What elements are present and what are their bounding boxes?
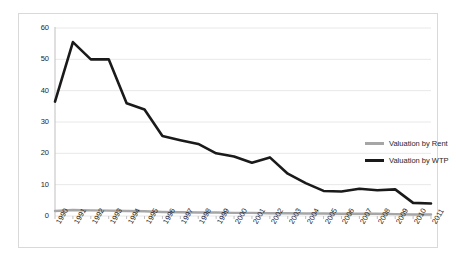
y-tick-label: 60 (29, 23, 49, 32)
legend-swatch-rent (365, 142, 384, 145)
legend-item-rent: Valuation by Rent (365, 136, 456, 150)
chart-legend: Valuation by Rent Valuation by WTP (365, 136, 456, 170)
data-series-group (55, 42, 431, 214)
legend-swatch-wtp (365, 159, 384, 162)
legend-item-wtp: Valuation by WTP (365, 153, 456, 167)
y-tick-label: 10 (29, 180, 49, 189)
chart-frame: 0102030405060 19901991199219931994199519… (18, 13, 438, 248)
y-tick-label: 50 (29, 54, 49, 63)
legend-label-rent: Valuation by Rent (389, 139, 448, 148)
legend-label-wtp: Valuation by WTP (389, 156, 448, 165)
series-line-wtp (55, 42, 431, 203)
chart-container: 0102030405060 19901991199219931994199519… (0, 0, 456, 269)
gridlines (55, 28, 431, 216)
y-tick-label: 40 (29, 86, 49, 95)
y-tick-label: 0 (29, 211, 49, 220)
y-tick-label: 20 (29, 148, 49, 157)
y-tick-label: 30 (29, 117, 49, 126)
